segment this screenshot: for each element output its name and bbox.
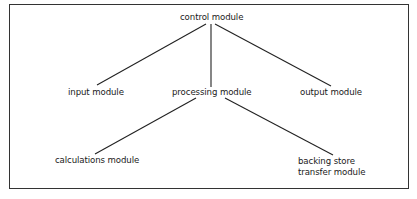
node-backing-store-line2: transfer module [298, 167, 365, 178]
node-input-module: input module [68, 87, 124, 98]
node-control-module: control module [180, 12, 243, 23]
edge-processing-backing [225, 98, 333, 155]
edge-control-output [215, 24, 331, 86]
node-processing-module: processing module [172, 87, 252, 98]
node-calculations-module: calculations module [55, 155, 139, 166]
node-output-module: output module [300, 87, 362, 98]
edge-processing-calculations [95, 98, 196, 154]
edge-control-input [97, 24, 206, 85]
node-backing-store-line1: backing store [298, 156, 355, 167]
